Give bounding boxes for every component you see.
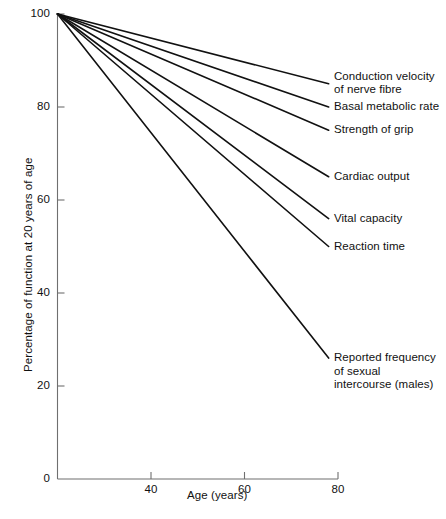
ticks-group	[58, 14, 339, 479]
series-label: Basal metabolic rate	[334, 100, 439, 114]
x-axis-title: Age (years)	[187, 489, 248, 501]
series-label: Reported frequency of sexual intercourse…	[334, 351, 436, 392]
series-label: Strength of grip	[334, 123, 413, 137]
series-line	[58, 14, 329, 107]
series-label: Reaction time	[334, 240, 405, 254]
y-tick-label: 80	[6, 100, 50, 112]
y-tick-label: 0	[6, 472, 50, 484]
series-line	[58, 14, 329, 358]
series-line	[58, 14, 329, 177]
x-tick-label: 40	[131, 483, 171, 495]
series-label: Conduction velocity of nerve fibre	[334, 70, 435, 97]
x-tick-label: 80	[318, 483, 358, 495]
y-tick-label: 100	[6, 7, 50, 19]
axes-group	[58, 14, 339, 479]
series-lines-group	[58, 14, 329, 358]
series-line	[58, 14, 329, 130]
y-tick-label: 20	[6, 379, 50, 391]
chart-figure: 020406080100 406080 Conduction velocity …	[0, 0, 446, 519]
series-line	[58, 14, 329, 219]
series-label: Vital capacity	[334, 212, 402, 226]
series-label: Cardiac output	[334, 170, 410, 184]
y-axis-title: Percentage of function at 20 years of ag…	[22, 158, 34, 372]
